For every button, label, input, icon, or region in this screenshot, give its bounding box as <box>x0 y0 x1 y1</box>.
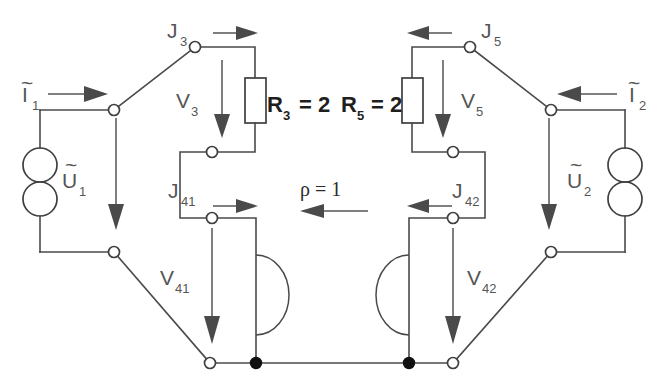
label-r3: R 3 = 2 <box>267 92 330 123</box>
arrow-v41-head <box>204 316 220 344</box>
coupling-right-semicircle <box>376 255 409 335</box>
label-r5-sub: 5 <box>357 108 364 123</box>
label-v5-sub: 5 <box>476 104 483 119</box>
node-j5 <box>465 42 476 53</box>
circuit-canvas: I ~ 1 I ~ 2 U ~ 1 U ~ 2 <box>0 0 665 392</box>
label-current-i1: I ~ 1 <box>21 71 39 113</box>
label-j3-main: J <box>167 19 178 42</box>
label-v5: V 5 <box>461 89 483 119</box>
circuit-diagram: I ~ 1 I ~ 2 U ~ 1 U ~ 2 <box>0 0 665 392</box>
label-i2-sub: 2 <box>639 98 646 113</box>
label-u1-tilde: ~ <box>65 153 77 176</box>
label-i1-sub: 1 <box>32 98 39 113</box>
label-j42-sub: 42 <box>465 194 479 209</box>
node-ground-left <box>251 358 262 369</box>
label-current-i2: I ~ 2 <box>628 71 646 113</box>
arrow-i2-head <box>557 86 581 102</box>
label-r5-main: R <box>341 92 357 117</box>
label-i1-tilde: ~ <box>21 71 33 94</box>
wire-j41-to-ground <box>212 218 256 363</box>
left-source-circle-upper <box>23 148 57 182</box>
label-v3-main: V <box>176 89 190 112</box>
label-v42-sub: 42 <box>482 281 496 296</box>
node-j3 <box>190 42 201 53</box>
label-j5-main: J <box>481 19 492 42</box>
left-source-circle-lower <box>23 182 57 216</box>
label-u2-tilde: ~ <box>570 153 582 176</box>
node-top-left-terminal <box>109 105 120 116</box>
wire-r5-bottom-to-node <box>412 123 453 152</box>
label-v3: V 3 <box>176 89 198 119</box>
label-u1-sub: 1 <box>79 184 86 199</box>
label-v41-main: V <box>160 266 174 289</box>
label-voltage-u1: U ~ 1 <box>62 153 86 199</box>
label-voltage-u2: U ~ 2 <box>567 153 591 199</box>
label-j5-sub: 5 <box>494 34 501 49</box>
label-j41-main: J <box>168 179 179 202</box>
label-v42-main: V <box>467 266 481 289</box>
arrow-u2-head <box>541 204 557 230</box>
arrow-i1-head <box>84 86 108 102</box>
label-j41-sub: 41 <box>181 194 195 209</box>
label-j3-sub: 3 <box>180 34 187 49</box>
node-mid-left-upper <box>207 147 218 158</box>
arrow-j42-head <box>407 199 429 213</box>
coupling-left-semicircle <box>256 255 289 335</box>
label-v41: V 41 <box>160 266 189 296</box>
label-rho: ρ = 1 <box>300 178 341 201</box>
right-source-circle-lower <box>608 182 642 216</box>
wire-j42-to-ground <box>409 218 453 363</box>
arrow-j3-head <box>236 26 258 40</box>
arrow-v3-head <box>214 114 230 138</box>
label-j42-main: J <box>452 179 463 202</box>
node-bottom-right-rail <box>448 358 459 369</box>
label-r3-main: R <box>267 92 283 117</box>
resistor-r3-body <box>245 78 266 123</box>
right-source-circle-upper <box>608 148 642 182</box>
label-v5-main: V <box>461 89 475 112</box>
wire-j5-to-r5-top <box>412 47 470 78</box>
node-j41 <box>207 213 218 224</box>
wire-diag-top-right <box>470 47 551 110</box>
resistor-r5-body <box>402 78 423 123</box>
label-r5-value: = 2 <box>371 92 402 117</box>
label-v42: V 42 <box>467 266 496 296</box>
label-j5: J 5 <box>481 19 501 49</box>
arrow-j5-head <box>407 26 429 40</box>
wire-j3-to-r3-top <box>195 47 255 78</box>
label-j42: J 42 <box>452 179 479 209</box>
label-i2-tilde: ~ <box>628 71 640 94</box>
label-r5: R 5 = 2 <box>341 92 402 123</box>
wire-r3-bottom-to-node <box>212 123 255 152</box>
label-r3-sub: 3 <box>283 108 290 123</box>
arrow-v5-head <box>435 114 451 138</box>
arrow-v42-head <box>445 316 461 344</box>
arrow-j41-head <box>236 199 258 213</box>
node-top-right-terminal <box>546 105 557 116</box>
label-u2-sub: 2 <box>584 184 591 199</box>
node-bottom-left-terminal <box>109 247 120 258</box>
node-mid-right-upper <box>448 147 459 158</box>
node-bottom-right-terminal <box>546 247 557 258</box>
right-source-branch <box>551 110 642 252</box>
arrow-rho-head <box>300 204 324 218</box>
label-v41-sub: 41 <box>175 281 189 296</box>
label-v3-sub: 3 <box>191 104 198 119</box>
arrow-u1-head <box>108 204 124 230</box>
node-j42 <box>448 213 459 224</box>
node-ground-right <box>404 358 415 369</box>
label-j3: J 3 <box>167 19 187 49</box>
label-r3-value: = 2 <box>299 92 330 117</box>
label-j41: J 41 <box>168 179 195 209</box>
node-bottom-left-rail <box>205 358 216 369</box>
